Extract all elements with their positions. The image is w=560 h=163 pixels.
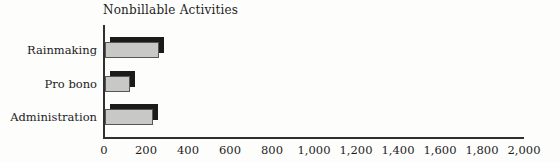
x-tick-label: 1,200 xyxy=(340,143,373,157)
chart-title: Nonbillable Activities xyxy=(103,3,238,17)
x-axis-line xyxy=(103,137,524,139)
category-label: Administration xyxy=(10,110,97,124)
category-label: Rainmaking xyxy=(27,43,97,57)
x-tick-label: 1,000 xyxy=(298,143,331,157)
bar-face xyxy=(105,42,159,58)
chart-canvas: Nonbillable Activities RainmakingPro bon… xyxy=(0,0,560,163)
bar-rainmaking xyxy=(105,42,159,58)
bar-pro-bono xyxy=(105,76,130,92)
category-label: Pro bono xyxy=(45,77,97,91)
bar-face xyxy=(105,109,153,125)
x-tick-label: 1,800 xyxy=(466,143,499,157)
x-tick-label: 1,400 xyxy=(382,143,415,157)
bar-administration xyxy=(105,109,153,125)
x-axis-tick-labels: 02004006008001,0001,2001,4001,6001,8002,… xyxy=(104,143,524,159)
category-axis-labels: RainmakingPro bonoAdministration xyxy=(0,25,97,137)
x-tick-label: 200 xyxy=(135,143,157,157)
x-tick-label: 800 xyxy=(261,143,283,157)
bar-face xyxy=(105,76,130,92)
x-tick-label: 0 xyxy=(100,143,107,157)
plot-area xyxy=(105,25,524,137)
x-tick-label: 600 xyxy=(219,143,241,157)
x-tick-label: 400 xyxy=(177,143,199,157)
x-tick-label: 1,600 xyxy=(424,143,457,157)
x-tick-label: 2,000 xyxy=(508,143,541,157)
